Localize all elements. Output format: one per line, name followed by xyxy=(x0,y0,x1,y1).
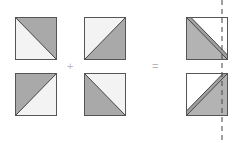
half-square-triangle-icon xyxy=(84,17,126,60)
square-a-bottom xyxy=(15,73,57,116)
equals-operator: = xyxy=(152,61,158,72)
cut-line xyxy=(221,0,223,143)
half-square-triangle-icon xyxy=(15,17,57,60)
square-b-bottom xyxy=(84,73,126,116)
plus-operator: + xyxy=(67,61,73,72)
square-a-top xyxy=(15,17,57,60)
half-square-triangle-icon xyxy=(15,73,57,116)
half-square-triangle-icon xyxy=(84,73,126,116)
square-b-top xyxy=(84,17,126,60)
